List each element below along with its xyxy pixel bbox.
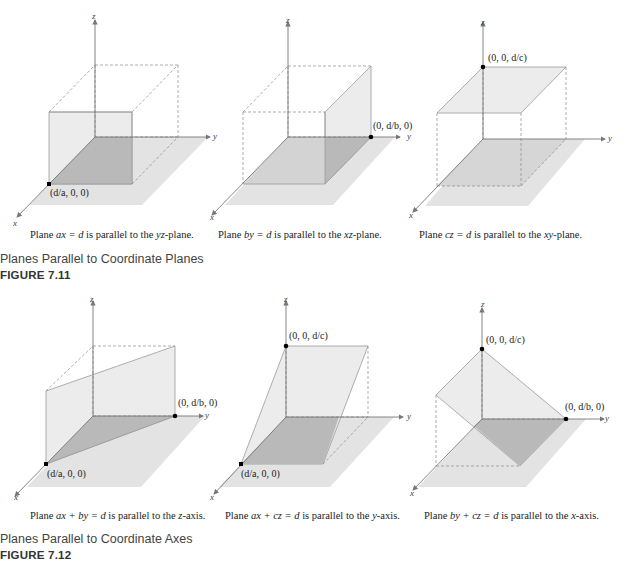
diagram-plane-by-eq-d — [212, 22, 400, 215]
x-axis-label: x — [14, 492, 18, 502]
y-axis-label: y — [407, 131, 411, 141]
z-axis-label: z — [90, 294, 94, 304]
panel-caption: Plane by + cz = d is parallel to the x-a… — [424, 510, 599, 521]
diagram-plane-ax-by-eq-d — [15, 301, 205, 496]
z-axis-label: z — [481, 17, 485, 27]
point-label: (0, 0, d/c) — [486, 334, 525, 345]
panel-caption: Plane cz = d is parallel to the xy-plane… — [419, 229, 582, 240]
z-axis-label: z — [481, 299, 485, 309]
panel-caption: Plane ax = d is parallel to the yz-plane… — [30, 229, 194, 240]
x-axis-label: x — [13, 218, 17, 228]
figure-number: FIGURE 7.11 — [0, 269, 71, 281]
figure-title: Planes Parallel to Coordinate Planes — [0, 252, 204, 266]
y-axis-label: y — [205, 410, 209, 420]
figure-number: FIGURE 7.12 — [0, 549, 71, 561]
panel-caption: Plane ax + by = d is parallel to the z-a… — [30, 510, 205, 521]
diagram-plane-cz-eq-d — [413, 22, 605, 212]
intercept-point — [47, 182, 51, 186]
x-axis-label: x — [410, 488, 414, 498]
figures-canvas — [0, 0, 623, 567]
x-axis-label: x — [409, 210, 413, 220]
y-axis-label: y — [213, 131, 217, 141]
x-axis-label: x — [210, 492, 214, 502]
z-axis-label: z — [286, 15, 290, 25]
point-label: (0, 0, d/c) — [289, 330, 328, 341]
panel-caption: Plane by = d is parallel to the xz-plane… — [218, 229, 382, 240]
x-axis-label: x — [210, 212, 214, 222]
point-label: (0, d/b, 0) — [178, 397, 217, 408]
point-label: (0, 0, d/c) — [488, 52, 527, 63]
y-axis-label: y — [407, 411, 411, 421]
point-label: (0, d/b, 0) — [565, 401, 604, 412]
y-axis-label: y — [608, 133, 612, 143]
z-axis-label: z — [92, 11, 96, 21]
diagram-plane-ax-eq-d — [17, 20, 210, 217]
z-axis-label: z — [284, 294, 288, 304]
point-label: (0, d/b, 0) — [373, 120, 412, 131]
point-label: (d/a, 0, 0) — [241, 468, 280, 479]
y-axis-label: y — [605, 413, 609, 423]
figure-title: Planes Parallel to Coordinate Axes — [0, 532, 192, 546]
panel-caption: Plane ax + cz = d is parallel to the y-a… — [225, 510, 400, 521]
point-label: (d/a, 0, 0) — [47, 468, 86, 479]
point-label: (d/a, 0, 0) — [50, 187, 89, 198]
